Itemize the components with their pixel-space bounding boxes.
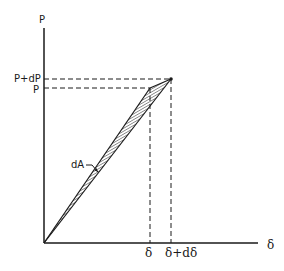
load-line-lower xyxy=(44,88,150,243)
x-tick-delta: δ xyxy=(145,246,152,260)
y-tick-P: P xyxy=(33,84,39,95)
x-tick-delta-plus-d-delta: δ+dδ xyxy=(165,246,197,260)
y-axis-label: P xyxy=(39,14,45,25)
load-line-upper xyxy=(44,79,171,243)
area-label-dA: dA xyxy=(71,159,84,170)
y-tick-P-plus-dP: P+dP xyxy=(14,73,41,84)
load-displacement-diagram: P P+dP P dA δ δ+dδ δ xyxy=(0,0,284,271)
x-axis-label: δ xyxy=(267,238,274,252)
